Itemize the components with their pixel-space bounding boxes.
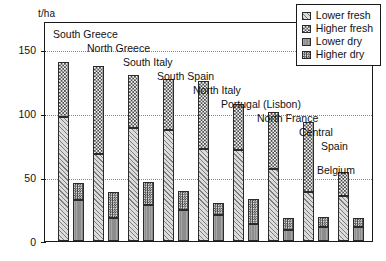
bar-dry[interactable]: [248, 199, 259, 241]
bar-fresh[interactable]: [268, 112, 279, 241]
bar-dry[interactable]: [213, 203, 224, 241]
region-label: Portugal (Lisbon): [221, 99, 301, 110]
bar-segment-lower-fresh[interactable]: [128, 128, 139, 241]
region-label: Central: [299, 127, 333, 138]
region-label: Belgium: [317, 165, 355, 176]
bar-fresh[interactable]: [163, 79, 174, 241]
bar-segment-higher-dry[interactable]: [108, 192, 119, 218]
chart-root: t/ha 150100500 South GreeceNorth GreeceS…: [0, 0, 386, 261]
bar-dry[interactable]: [353, 218, 364, 241]
bar-dry[interactable]: [73, 183, 84, 241]
bar-dry[interactable]: [283, 218, 294, 241]
legend-item-label: Lower fresh: [316, 10, 371, 21]
bar-dry[interactable]: [318, 217, 329, 241]
region-label: South Spain: [157, 71, 214, 82]
y-axis-tick-label: 0: [8, 237, 36, 247]
bar-segment-higher-fresh[interactable]: [233, 104, 244, 150]
bar-segment-higher-dry[interactable]: [248, 199, 259, 225]
bar-segment-higher-dry[interactable]: [213, 203, 224, 216]
legend-swatch-icon: [302, 25, 311, 33]
bar-dry[interactable]: [143, 182, 154, 241]
legend-swatch-icon: [302, 12, 311, 20]
bar-segment-higher-dry[interactable]: [73, 183, 84, 200]
legend-item-label: Lower dry: [316, 36, 362, 47]
bar-segment-lower-dry[interactable]: [73, 200, 84, 241]
y-axis-tick-mark: [41, 242, 46, 243]
region-label: North Greece: [87, 43, 150, 54]
bar-segment-higher-dry[interactable]: [178, 191, 189, 210]
bar-segment-higher-fresh[interactable]: [128, 75, 139, 129]
bar-segment-lower-dry[interactable]: [283, 230, 294, 242]
legend-item-label: Higher dry: [316, 49, 364, 60]
bar-segment-higher-fresh[interactable]: [93, 66, 104, 154]
legend-item[interactable]: Higher dry: [302, 48, 373, 61]
bar-fresh[interactable]: [58, 62, 69, 241]
region-label: North Italy: [193, 85, 241, 96]
bar-fresh[interactable]: [303, 122, 314, 241]
bar-segment-lower-fresh[interactable]: [163, 130, 174, 241]
bar-segment-higher-dry[interactable]: [283, 218, 294, 230]
bar-fresh[interactable]: [233, 104, 244, 241]
bar-dry[interactable]: [108, 192, 119, 241]
region-label: North France: [257, 113, 318, 124]
bar-dry[interactable]: [178, 191, 189, 241]
bar-fresh[interactable]: [338, 172, 349, 241]
bar-segment-lower-dry[interactable]: [143, 205, 154, 241]
region-label: South Italy: [123, 57, 173, 68]
legend-item-label: Higher fresh: [316, 23, 373, 34]
legend-item[interactable]: Higher fresh: [302, 22, 373, 35]
bar-segment-lower-dry[interactable]: [248, 224, 259, 241]
legend-item[interactable]: Lower fresh: [302, 9, 373, 22]
y-axis-unit-label: t/ha: [38, 8, 55, 19]
bar-segment-lower-fresh[interactable]: [303, 192, 314, 241]
bar-segment-lower-dry[interactable]: [213, 215, 224, 241]
y-axis-tick-label: 150: [8, 45, 36, 55]
bar-segment-higher-fresh[interactable]: [58, 62, 69, 117]
bar-segment-lower-fresh[interactable]: [93, 154, 104, 241]
region-label: South Greece: [53, 29, 118, 40]
bar-segment-lower-fresh[interactable]: [338, 196, 349, 241]
y-axis-tick-label: 50: [8, 173, 36, 183]
bar-segment-lower-dry[interactable]: [353, 227, 364, 241]
bar-fresh[interactable]: [128, 75, 139, 241]
bar-segment-lower-dry[interactable]: [108, 218, 119, 241]
legend: Lower freshHigher freshLower dryHigher d…: [296, 4, 381, 66]
bar-segment-higher-dry[interactable]: [318, 217, 329, 227]
bar-segment-higher-dry[interactable]: [353, 218, 364, 227]
bar-segment-lower-dry[interactable]: [178, 210, 189, 241]
bar-fresh[interactable]: [93, 66, 104, 241]
bar-segment-lower-fresh[interactable]: [198, 149, 209, 241]
legend-swatch-icon: [302, 51, 311, 59]
bar-segment-lower-fresh[interactable]: [58, 117, 69, 241]
bar-segment-lower-fresh[interactable]: [233, 150, 244, 241]
bar-segment-lower-dry[interactable]: [318, 227, 329, 241]
legend-item[interactable]: Lower dry: [302, 35, 373, 48]
bar-fresh[interactable]: [198, 81, 209, 241]
y-axis-tick-label: 100: [8, 109, 36, 119]
bar-segment-higher-fresh[interactable]: [163, 79, 174, 130]
bar-segment-higher-dry[interactable]: [143, 182, 154, 205]
bar-segment-lower-fresh[interactable]: [268, 169, 279, 241]
region-label: Spain: [321, 141, 348, 152]
legend-swatch-icon: [302, 38, 311, 46]
